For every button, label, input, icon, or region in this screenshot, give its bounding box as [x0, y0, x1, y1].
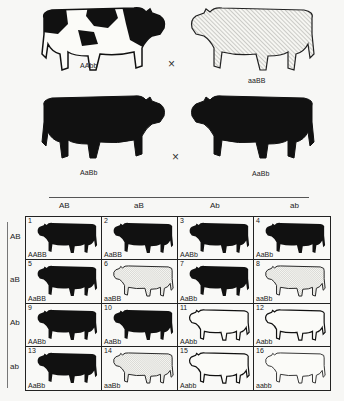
cow-light-icon: [262, 264, 328, 298]
genotype-label: aaBB: [248, 77, 266, 84]
cell-genotype: aaBb: [256, 295, 272, 302]
punnett-cell: 4AaBb: [254, 217, 330, 260]
punnett-cell: 9AABb: [26, 304, 102, 347]
cell-genotype: AaBB: [28, 295, 46, 302]
cow-spotted-icon: [262, 308, 328, 342]
parent-f1-left-black-bull: AaBb: [38, 92, 170, 162]
cow-black-icon: [262, 221, 328, 255]
punnett-cell: 3AABb: [178, 217, 254, 260]
punnett-cell: 8aaBb: [254, 260, 330, 303]
punnett-cell: 10AaBb: [102, 304, 178, 347]
punnett-cell: 6aaBB: [102, 260, 178, 303]
cow-black-icon: [186, 221, 252, 255]
gamete-col-2: aB: [134, 201, 144, 210]
cell-genotype: AABB: [28, 251, 47, 258]
gamete-col-4: ab: [290, 201, 299, 210]
genotype-label: AaBb: [252, 170, 270, 177]
punnett-cell: 7AaBb: [178, 260, 254, 303]
gamete-row-3: Ab: [10, 318, 20, 327]
cell-number: 3: [180, 217, 184, 224]
cell-number: 7: [180, 260, 184, 267]
genotype-label: AaBb: [80, 169, 98, 176]
parent-p-left-spotted-bull: AAbb: [38, 4, 170, 74]
punnett-square: 1AABB 2AaBB 3AABb 4AaBb 5AaBB 6aaBB 7AaB…: [25, 216, 331, 391]
cow-black-icon: [34, 264, 100, 298]
cow-black-icon: [110, 308, 176, 342]
cell-number: 2: [104, 217, 108, 224]
cell-genotype: AABb: [28, 338, 46, 345]
gamete-row-1: AB: [10, 232, 21, 241]
cow-light-icon: [110, 351, 176, 385]
punnett-cell: 11 AAbb: [178, 304, 254, 347]
cow-black-icon: [186, 264, 252, 298]
cow-spotted-icon: [186, 351, 252, 385]
cell-genotype: aaBb: [104, 382, 120, 389]
punnett-cell: 5AaBB: [26, 260, 102, 303]
cow-black-icon: [110, 221, 176, 255]
gamete-row-2: aB: [10, 275, 20, 284]
gamete-col-1: AB: [59, 201, 70, 210]
cell-genotype: AAbb: [180, 338, 197, 345]
cell-genotype: AaBB: [104, 251, 122, 258]
gamete-col-3: Ab: [210, 201, 220, 210]
cell-genotype: AABb: [180, 251, 198, 258]
parent-p-right-light-cow: aaBB: [186, 4, 318, 74]
cell-genotype: AaBb: [104, 338, 121, 345]
cell-genotype: aabb: [256, 382, 272, 389]
punnett-cell: 2AaBB: [102, 217, 178, 260]
gamete-row-4: ab: [10, 362, 19, 371]
cow-light-icon: [110, 264, 176, 298]
cell-genotype: AaBb: [28, 382, 45, 389]
cross-symbol: ×: [168, 57, 175, 71]
punnett-cell: 1AABB: [26, 217, 102, 260]
cell-genotype: aaBB: [104, 295, 121, 302]
cell-genotype: Aabb: [256, 338, 272, 345]
cell-number: 1: [28, 217, 32, 224]
cell-number: 5: [28, 260, 32, 267]
punnett-cell: 16 aabb: [254, 347, 330, 390]
genotype-label: AAbb: [80, 62, 98, 69]
cow-black-icon: [34, 308, 100, 342]
cow-black-icon: [34, 351, 100, 385]
gametes-bracket-line: [49, 197, 309, 198]
cell-genotype: AaBb: [180, 295, 197, 302]
punnett-cell: 12 Aabb: [254, 304, 330, 347]
cell-number: 9: [28, 304, 32, 311]
cell-number: 8: [256, 260, 260, 267]
punnett-cell: 13AaBb: [26, 347, 102, 390]
gametes-row-bracket: [7, 222, 8, 388]
punnett-cell: 15 Aabb: [178, 347, 254, 390]
cow-spotted-icon: [186, 308, 252, 342]
parent-f1-right-black-cow: AaBb: [186, 92, 318, 162]
cell-genotype: Aabb: [180, 382, 196, 389]
cross-symbol: ×: [172, 150, 179, 164]
cell-number: 6: [104, 260, 108, 267]
cell-genotype: AaBb: [256, 251, 273, 258]
punnett-cell: 14aaBb: [102, 347, 178, 390]
cow-black-icon: [34, 221, 100, 255]
cell-number: 4: [256, 217, 260, 224]
cow-light-spotted-icon: [262, 351, 328, 385]
